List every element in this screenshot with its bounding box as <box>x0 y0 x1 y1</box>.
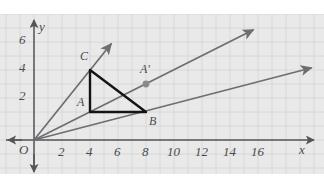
ray-lower <box>34 68 311 140</box>
point-a-prime-marker <box>143 81 150 88</box>
y-tick-label-6: 6 <box>19 33 26 46</box>
vertex-label-c: C <box>80 50 88 62</box>
x-tick-label-8: 8 <box>142 145 149 158</box>
y-tick-label-2: 2 <box>19 89 26 102</box>
x-tick-label-10: 10 <box>167 145 180 158</box>
point-label-a-prime: A' <box>140 63 150 75</box>
x-tick-label-14: 14 <box>223 145 236 158</box>
y-axis-name: y <box>39 20 45 33</box>
x-axis-name: x <box>299 143 305 156</box>
x-tick-label-12: 12 <box>195 145 208 158</box>
x-tick-label-16: 16 <box>251 145 264 158</box>
origin-label: O <box>19 143 28 156</box>
plot-svg <box>0 0 324 184</box>
y-tick-label-4: 4 <box>19 61 26 74</box>
vertex-label-b: B <box>149 115 156 127</box>
rays-from-origin <box>34 30 311 140</box>
vertex-label-a: A <box>77 96 84 108</box>
x-tick-label-6: 6 <box>114 145 121 158</box>
coordinate-plane-figure: 6 4 2 y O 2 4 6 8 10 12 14 16 x C A B A' <box>0 0 324 184</box>
x-tick-label-2: 2 <box>58 145 65 158</box>
grid-lines <box>0 14 324 174</box>
x-tick-label-4: 4 <box>86 145 93 158</box>
